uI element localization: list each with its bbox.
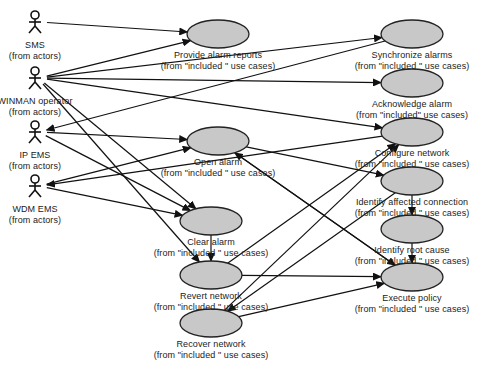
actor-wdmems-icon[interactable] — [29, 175, 41, 197]
use-case-clear[interactable] — [180, 207, 242, 235]
use-case-name: Recover network — [176, 339, 245, 350]
actor-name: IP EMS — [20, 150, 51, 161]
association-winman-ack — [47, 78, 381, 83]
use-case-package: (from "included " use cases) — [161, 61, 276, 72]
actor-name: WINMAN operator — [0, 96, 73, 107]
use-case-identify_conn[interactable] — [381, 167, 443, 195]
use-case-package: (from "included " use cases) — [355, 159, 470, 170]
actor-name: WDM EMS — [12, 204, 57, 215]
use-case-name: Open alarm — [194, 157, 242, 168]
use-case-package: (from "included " use cases) — [161, 168, 276, 179]
use-case-package: (from "included " use cases) — [355, 208, 470, 219]
actor-name: SMS — [25, 40, 45, 51]
use-case-root_cause[interactable] — [381, 215, 443, 243]
use-case-sync[interactable] — [381, 20, 443, 48]
use-case-name: Synchronize alarms — [372, 50, 453, 61]
actor-winman-icon[interactable] — [29, 67, 41, 89]
use-case-package: (from "included " use cases) — [154, 248, 269, 259]
association-sms-provide — [47, 23, 187, 33]
use-case-name: Acknowledge alarm — [372, 99, 452, 110]
use-case-name: Provide alarm reports — [174, 50, 262, 61]
actor-package: (from actors) — [9, 51, 61, 62]
use-case-name: Configure network — [375, 148, 450, 159]
use-case-name: Identify root cause — [374, 245, 449, 256]
association-wdmems-clear — [47, 188, 183, 216]
association-revert-execute — [242, 275, 381, 276]
use-case-name: Identify affected connection — [356, 197, 468, 208]
use-case-name: Execute policy — [382, 293, 441, 304]
actor-package: (from actors) — [9, 107, 61, 118]
use-case-ack[interactable] — [381, 69, 443, 97]
actor-ipems-icon[interactable] — [29, 121, 41, 143]
use-case-package: (from "included " use cases) — [154, 350, 269, 361]
use-case-name: Revert network — [180, 291, 242, 302]
use-case-revert[interactable] — [180, 261, 242, 289]
use-case-provide[interactable] — [187, 20, 249, 48]
actor-package: (from actors) — [9, 161, 61, 172]
actor-package: (from actors) — [9, 215, 61, 226]
use-case-package: (from "included " use cases) — [154, 302, 269, 313]
use-case-name: Clear alarm — [187, 237, 235, 248]
actor-sms-icon[interactable] — [29, 11, 41, 33]
use-case-recover[interactable] — [180, 309, 242, 337]
use-case-package: (from "included" use cases) — [356, 110, 468, 121]
use-case-package: (from "included " use cases) — [355, 256, 470, 267]
use-case-execute[interactable] — [381, 263, 443, 291]
association-ipems-open — [47, 132, 187, 139]
use-case-open[interactable] — [187, 127, 249, 155]
use-case-configure[interactable] — [381, 118, 443, 146]
use-case-package: (from "included " use cases) — [355, 61, 470, 72]
use-case-package: (from "included " use cases) — [355, 304, 470, 315]
